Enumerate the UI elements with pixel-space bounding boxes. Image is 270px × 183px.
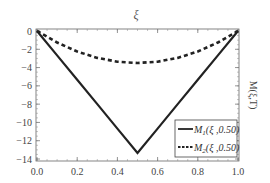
y-tick-label: −12	[16, 135, 32, 146]
y-tick-label: −10	[16, 117, 32, 128]
x-tick-label: 1.0	[232, 166, 245, 177]
y-tick-label: −2	[21, 44, 32, 55]
y-tick-label: −8	[21, 99, 32, 110]
x-tick-label: 0.4	[111, 166, 124, 177]
x-tick-label: 0.2	[71, 166, 84, 177]
y-tick-label: −14	[16, 154, 32, 165]
x-tick-label: 0.6	[151, 166, 164, 177]
y-tick-label: −6	[21, 80, 32, 91]
legend: M1(ξ ,0.50) M2(ξ ,0.50)	[175, 120, 240, 157]
y-tick-label: 0	[27, 26, 32, 37]
series-m2-line	[37, 31, 238, 63]
x-tick-label: 0.0	[31, 166, 44, 177]
y-axis-label: M(ξ,T)	[247, 81, 259, 110]
x-tick-labels: 0.00.20.40.60.81.0	[31, 166, 245, 177]
x-tick-label: 0.8	[192, 166, 205, 177]
y-tick-label: −4	[21, 62, 32, 73]
y-tick-labels: 0−2−4−6−8−10−12−14	[16, 26, 32, 165]
chart-title: ξ	[133, 8, 139, 22]
chart: ξ 0−2−4−6−8−10−12−14 0.00.20.40.60.81.0 …	[0, 0, 270, 183]
